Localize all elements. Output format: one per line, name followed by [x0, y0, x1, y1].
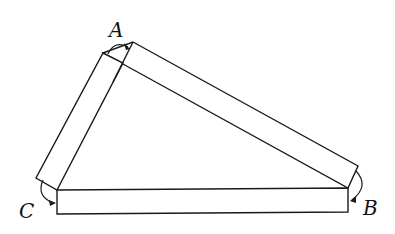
vertex-label-c: C: [19, 199, 34, 223]
arrowhead-c: [49, 200, 56, 206]
bar-cb: [57, 188, 348, 214]
triangle-linkage-diagram: A B C: [0, 0, 395, 234]
vertex-label-a: A: [107, 18, 123, 42]
bar-ab: [103, 42, 358, 188]
arrowhead-b: [350, 196, 356, 203]
vertex-label-b: B: [362, 196, 378, 220]
bar-ac: [36, 53, 123, 190]
